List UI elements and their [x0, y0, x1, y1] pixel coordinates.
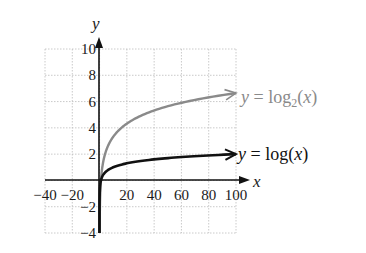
y-axis-arrow-icon — [95, 37, 103, 48]
y-tick-label: 2 — [89, 146, 97, 162]
x-axis-label: x — [252, 172, 261, 191]
y-tick-label: 8 — [89, 67, 97, 83]
grid-lines — [45, 49, 236, 233]
x-tick-labels: −40−2020406080100 — [33, 187, 247, 203]
x-tick-label: 20 — [119, 187, 134, 203]
log2-curve — [100, 93, 236, 233]
y-tick-label: 6 — [89, 94, 97, 110]
x-tick-label: 60 — [174, 187, 189, 203]
curve-arrowheads — [225, 90, 236, 160]
x-axis-arrow-icon — [239, 176, 250, 184]
y-tick-label: −4 — [80, 225, 96, 241]
x-tick-label: −40 — [33, 187, 56, 203]
x-tick-label: 80 — [201, 187, 216, 203]
y-tick-label: 4 — [89, 120, 97, 136]
log-function-chart: x y −40−2020406080100 −4−2246810 y = log… — [0, 0, 366, 253]
y-tick-label: −2 — [80, 199, 96, 215]
y-tick-label: 10 — [81, 41, 96, 57]
y-tick-labels: −4−2246810 — [80, 41, 96, 241]
x-tick-label: 100 — [225, 187, 248, 203]
log2-legend-label: y = log2(x) — [239, 87, 317, 110]
x-tick-label: 40 — [147, 187, 162, 203]
y-axis-label: y — [90, 14, 100, 33]
log10-legend-label: y = log(x) — [236, 144, 308, 165]
